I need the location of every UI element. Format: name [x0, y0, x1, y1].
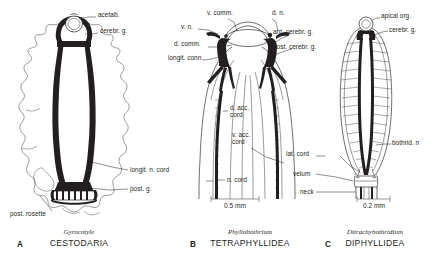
- leader-longit-n-cord: [92, 162, 128, 170]
- phyllobothrium-left-d-nerve: [206, 32, 220, 39]
- label-d-comm: d. comm.: [174, 40, 201, 47]
- label-v-comm: v. comm.: [207, 9, 233, 16]
- genus-a: Gyrocotyle: [34, 228, 124, 236]
- leader-velum: [316, 174, 353, 181]
- label-longit-conn: longit. conn.: [168, 54, 203, 61]
- figure-container: .ink { fill:#231f20; } .out { fill:none;…: [0, 0, 441, 268]
- gyrocotyle-fold-line-2: [26, 108, 40, 111]
- leader-v-comm: [228, 19, 237, 31]
- phyllobothrium-dorsal-commissure-2: [226, 26, 269, 44]
- label-cerebr-g-c: cerebr. g.: [389, 26, 416, 33]
- order-b: TETRAPHYLLIDEA: [196, 238, 304, 248]
- panel-c-artwork: [316, 17, 392, 199]
- label-v-n: v. n.: [181, 23, 193, 30]
- label-acetab: acetab.: [98, 11, 119, 18]
- leader-post-g: [89, 188, 128, 190]
- label-post-g: post. g.: [130, 185, 151, 192]
- ditrachybothridium-apical-organ: [359, 17, 373, 31]
- leader-v-acc-cord: [251, 148, 284, 163]
- order-c: DIPHYLLIDEA: [325, 238, 425, 248]
- phyllobothrium-left-node: [224, 34, 228, 38]
- phyllobothrium-left-main-cord: [215, 90, 223, 199]
- label-longit-n-cord: longit. n. cord: [130, 166, 169, 173]
- scale-label-b: 0.5 mm: [211, 202, 259, 209]
- ditrachybothridium-outline: [340, 28, 392, 176]
- leader-lat-cord: [340, 156, 360, 172]
- label-post-rosette: post. rosette: [10, 210, 46, 217]
- panel-letter-a: A: [17, 240, 23, 249]
- leader-cerebr-g-c: [374, 31, 388, 35]
- label-apical-org: apical org.: [381, 12, 411, 19]
- label-v-acc-cord: v. acc. cord: [232, 131, 250, 146]
- gyrocotyle-acetabulum-apex: [70, 14, 78, 16]
- gyrocotyle-left-cord: [52, 41, 66, 185]
- ditrachybothridium-right-cord: [365, 38, 374, 175]
- gyrocotyle-fold-line-3: [22, 146, 37, 149]
- order-a: CESTODARIA: [34, 238, 124, 248]
- leader-bothrid-n: [376, 144, 391, 145]
- leader-longit-conn: [203, 57, 218, 60]
- phyllobothrium-right-node: [268, 33, 272, 37]
- phyllobothrium-dorsal-commissure: [224, 22, 271, 40]
- label-d-acc-cord: d. acc. cord: [230, 104, 249, 119]
- phyllobothrium-ventral-commissure: [226, 30, 270, 47]
- label-post-cerebr-g: post. cerebr. g.: [273, 43, 316, 50]
- ditrachybothridium-neck-cord-left: [360, 187, 362, 199]
- ditrachybothridium-transverse-comm: [358, 31, 374, 34]
- panel-a-artwork: [19, 14, 129, 215]
- genus-c: Ditrachybothridium: [320, 228, 430, 236]
- ditrachybothridium-neck-cord-right: [371, 187, 373, 199]
- leader-post-rosette: [40, 196, 52, 211]
- phyllobothrium-mid-right: [250, 75, 253, 199]
- label-bothrid-n: bothrid. n: [392, 139, 419, 146]
- phyllobothrium-center-right: [255, 72, 265, 199]
- phyllobothrium-right-main-cord: [271, 90, 279, 199]
- genus-b: Phyllobothrium: [200, 228, 300, 236]
- phyllobothrium-longit-connective: [219, 48, 223, 66]
- ditrachybothridium-left-cord: [358, 38, 367, 175]
- label-neck: neck: [300, 188, 314, 195]
- label-ant-cerebr-g: ant. cerebr. g.: [273, 28, 313, 35]
- gyrocotyle-fold-line-5: [84, 211, 100, 215]
- label-n-cord: n. cord: [227, 176, 247, 183]
- scale-label-c: 0.2 mm: [350, 202, 398, 209]
- label-velum: velum: [293, 170, 310, 177]
- label-cerebr-g: cerebr. g.: [100, 27, 127, 34]
- gyrocotyle-right-cord: [82, 41, 96, 185]
- label-lat-cord: lat. cord: [286, 150, 309, 157]
- label-d-n: d. n.: [272, 9, 285, 16]
- gyrocotyle-fold-line-4: [62, 208, 80, 213]
- gyrocotyle-inner-fold: [34, 168, 54, 191]
- gyrocotyle-transverse-commissure: [57, 41, 91, 47]
- gyrocotyle-posterior-funnel: [54, 182, 94, 192]
